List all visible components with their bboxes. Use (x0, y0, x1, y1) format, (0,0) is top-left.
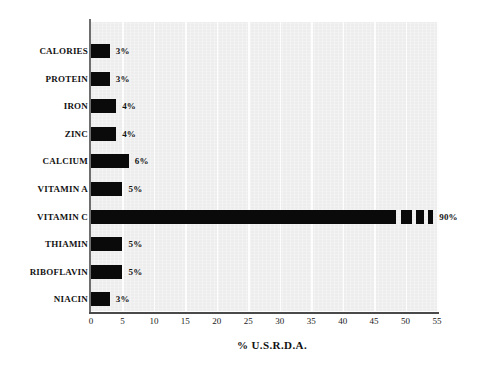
category-label: PROTEIN (46, 72, 88, 86)
bar-row: IRON4% (0, 99, 492, 113)
x-tick-40: 40 (331, 316, 355, 326)
category-label: CALORIES (39, 44, 88, 58)
category-label: IRON (64, 99, 88, 113)
category-label: RIBOFLAVIN (30, 265, 88, 279)
x-tick-5: 5 (110, 316, 134, 326)
bar-row: CALCIUM6% (0, 154, 492, 168)
bar-zinc (91, 127, 116, 141)
bar-segment-2 (416, 210, 424, 224)
x-axis-title-text: % U.S.R.D.A. (185, 339, 307, 351)
bar-row: VITAMIN C90% (0, 210, 492, 224)
bar-value-label: 3% (116, 72, 130, 86)
bar-iron (91, 99, 116, 113)
bar-vitamin-c (91, 210, 437, 224)
bar-protein (91, 72, 110, 86)
bar-segment-1 (401, 210, 412, 224)
bar-row: NIACIN3% (0, 292, 492, 306)
bar-value-label: 4% (122, 127, 136, 141)
x-tick-35: 35 (299, 316, 323, 326)
x-tick-15: 15 (173, 316, 197, 326)
x-tick-50: 50 (394, 316, 418, 326)
bar-value-label: 4% (122, 99, 136, 113)
category-label: NIACIN (54, 292, 88, 306)
x-tick-0: 0 (79, 316, 103, 326)
category-label: THIAMIN (45, 237, 88, 251)
bar-value-label: 5% (128, 265, 142, 279)
bar-riboflavin (91, 265, 122, 279)
x-axis-line (89, 312, 439, 314)
x-tick-10: 10 (142, 316, 166, 326)
bar-segment-3 (428, 210, 434, 224)
bar-value-label: 5% (128, 182, 142, 196)
bar-calories (91, 44, 110, 58)
x-tick-55: 55 (425, 316, 449, 326)
bar-row: VITAMIN A5% (0, 182, 492, 196)
bar-vitamin-a (91, 182, 122, 196)
category-label: CALCIUM (43, 154, 88, 168)
bar-niacin (91, 292, 110, 306)
x-tick-25: 25 (236, 316, 260, 326)
x-tick-20: 20 (205, 316, 229, 326)
x-tick-45: 45 (362, 316, 386, 326)
bar-segment-0 (91, 210, 396, 224)
x-tick-30: 30 (268, 316, 292, 326)
bar-calcium (91, 154, 129, 168)
category-label: VITAMIN A (38, 182, 88, 196)
bar-value-label: 3% (116, 44, 130, 58)
bar-value-label: 5% (128, 237, 142, 251)
x-axis-title: % U.S.R.D.A. (0, 339, 492, 351)
bar-row: ZINC4% (0, 127, 492, 141)
bar-thiamin (91, 237, 122, 251)
bar-value-label: 3% (116, 292, 130, 306)
bar-value-label: 90% (439, 210, 458, 224)
category-label: ZINC (65, 127, 88, 141)
bar-row: PROTEIN3% (0, 72, 492, 86)
bar-row: RIBOFLAVIN5% (0, 265, 492, 279)
category-label: VITAMIN C (37, 210, 88, 224)
bar-chart: CALORIES3%PROTEIN3%IRON4%ZINC4%CALCIUM6%… (0, 0, 492, 370)
bar-row: CALORIES3% (0, 44, 492, 58)
bar-row: THIAMIN5% (0, 237, 492, 251)
bar-value-label: 6% (135, 154, 149, 168)
